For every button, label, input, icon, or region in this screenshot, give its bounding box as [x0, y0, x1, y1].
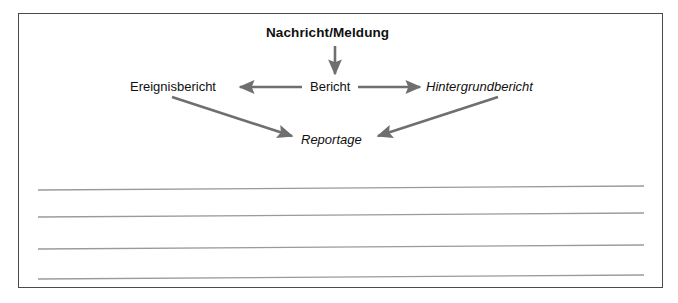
node-label-reportage: Reportage [301, 133, 362, 146]
figure-frame [18, 13, 663, 288]
page-root: Nachricht/Meldung Bericht Ereignisberich… [0, 0, 678, 303]
node-label-ereignisbericht: Ereignisbericht [130, 80, 216, 93]
node-label-nachricht-meldung: Nachricht/Meldung [266, 26, 389, 40]
node-label-hintergrundbericht: Hintergrundbericht [426, 80, 533, 93]
node-label-bericht: Bericht [310, 80, 350, 93]
